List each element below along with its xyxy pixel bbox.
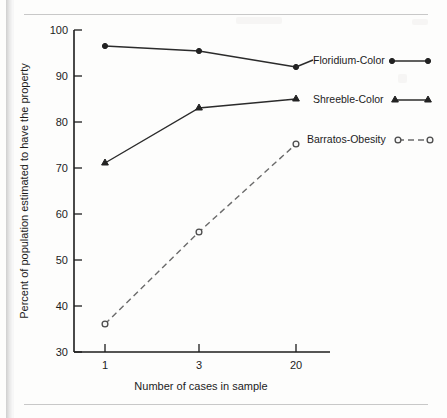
series-floridium-color	[102, 43, 313, 69]
series-shreeble-color	[102, 95, 300, 165]
legend-marker-triangle	[392, 96, 399, 102]
y-tick-label: 60	[56, 208, 68, 220]
scanned-page: 100 90 80 70 60 50 40 30 1 3 20 Number o	[0, 0, 447, 418]
legend-item-shreeble-color[interactable]: Shreeble-Color	[313, 93, 431, 105]
y-tick-label: 90	[56, 70, 68, 82]
legend-label: Shreeble-Color	[313, 93, 384, 105]
x-tick-label: 3	[196, 359, 202, 371]
legend: Floridium-Color Shreeble-Color Barratos-…	[307, 54, 433, 145]
y-tick-label: 40	[56, 300, 68, 312]
data-point	[196, 104, 203, 110]
legend-item-barratos-obesity[interactable]: Barratos-Obesity	[307, 133, 433, 145]
data-point	[293, 95, 300, 101]
legend-marker-circle	[425, 58, 430, 63]
legend-marker-open-circle	[395, 137, 401, 143]
series-barratos-obesity	[102, 141, 299, 327]
x-tick-labels: 1 3 20	[102, 359, 302, 371]
legend-marker-open-circle	[427, 137, 433, 143]
y-axis	[74, 30, 82, 352]
legend-marker-circle	[389, 58, 394, 63]
data-point	[102, 43, 107, 48]
data-point	[196, 229, 202, 235]
y-tick-label: 80	[56, 116, 68, 128]
y-tick-label: 30	[56, 346, 68, 358]
y-tick-label: 50	[56, 254, 68, 266]
x-tick-label: 1	[102, 359, 108, 371]
data-point	[196, 48, 201, 53]
legend-marker-triangle	[425, 96, 432, 102]
x-axis	[74, 344, 330, 352]
legend-label: Barratos-Obesity	[307, 133, 387, 145]
legend-label: Floridium-Color	[313, 54, 385, 66]
legend-item-floridium-color[interactable]: Floridium-Color	[313, 54, 431, 66]
x-axis-title: Number of cases in sample	[134, 380, 267, 392]
x-tick-label: 20	[290, 359, 302, 371]
y-axis-title: Percent of population estimated to have …	[18, 63, 30, 319]
data-point	[102, 321, 108, 327]
y-tick-labels: 100 90 80 70 60 50 40 30	[50, 24, 68, 358]
data-point	[293, 141, 299, 147]
y-tick-label: 70	[56, 162, 68, 174]
line-chart: 100 90 80 70 60 50 40 30 1 3 20 Number o	[0, 0, 447, 418]
y-tick-label: 100	[50, 24, 68, 36]
